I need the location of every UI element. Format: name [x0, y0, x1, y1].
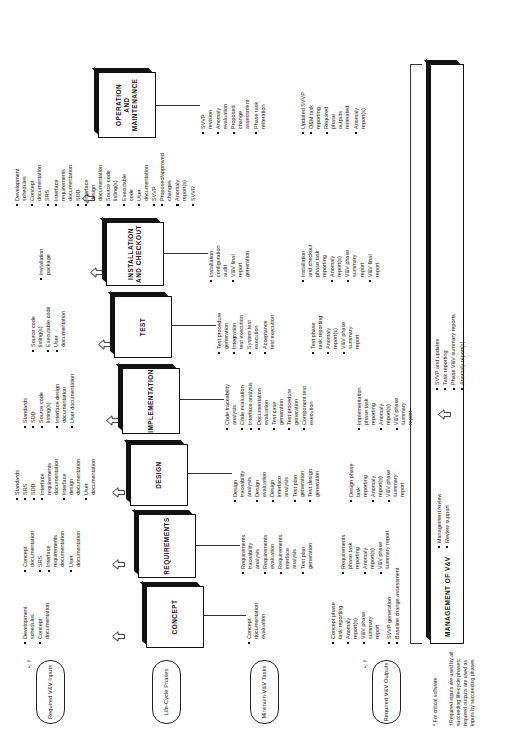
phase-box-requirements[interactable]: REQUIREMENTS — [138, 514, 196, 578]
phase-title: DESIGN — [155, 461, 163, 489]
outputs-list-management: SVVP and updates Task reporting Phase V&… — [434, 230, 467, 390]
list-item: Review support — [444, 428, 451, 548]
list-item: Source code listing(s) — [105, 136, 119, 206]
list-item: Design evaluation — [254, 442, 268, 502]
list-item: Executable code — [121, 136, 135, 206]
inputs-dagger-mark: •, † — [26, 659, 32, 668]
connector-test — [172, 325, 216, 326]
row-label-text: Life-Cycle Phases — [163, 669, 170, 716]
vv-lifecycle-diagram: Required V&V Inputs •, † Life-Cycle Phas… — [0, 0, 530, 734]
list-item: Test procedure generation — [216, 294, 230, 354]
list-item: Design phase task reporting — [348, 442, 369, 502]
list-item: Test procedure generation — [286, 368, 300, 430]
phase-box-implementation[interactable]: IMPLEMENTATION — [122, 368, 180, 434]
list-item: Anomaly report(s) — [329, 222, 343, 282]
phase-box-concept[interactable]: CONCEPT — [146, 586, 204, 648]
list-item: V&V phase summary report — [385, 442, 406, 502]
list-item: SDD — [30, 362, 37, 428]
list-item: Design interface analysis — [269, 442, 290, 502]
outputs-dagger-mark: •, † — [362, 659, 368, 668]
phase-title: CONCEPT — [171, 600, 179, 635]
list-item: Installation configuration audit — [208, 222, 229, 282]
row-label-required-vv-inputs: Required V&V Inputs — [36, 660, 65, 724]
list-item: Concept documentation — [37, 582, 51, 644]
flow-arrow-icon — [112, 487, 125, 498]
footnote-critical-software: * For critical software — [432, 646, 439, 726]
list-item: Acceptance test execution — [262, 294, 276, 354]
list-item: V&V phase summary report — [360, 584, 381, 644]
list-item: V&V phase summary report — [340, 294, 361, 354]
list-item: Test plan generation — [292, 442, 306, 502]
phase-box-operation-and-maintenance[interactable]: OPERATION AND MAINTENANCE — [98, 72, 156, 138]
tasks-list-concept: Concept documentation evaluation — [246, 584, 268, 644]
list-item: Proposed/approved changes — [159, 136, 173, 206]
list-item: SVVP generation — [386, 524, 393, 644]
row-label-minimum-vv-tasks: Minimum V&V Tasks — [250, 660, 279, 724]
list-item: SVVP revision — [200, 76, 214, 134]
list-item: Documentation evaluation — [256, 368, 270, 430]
outputs-list-operation-and-maintenance: Updated SVVP O&M task reporting Required… — [300, 76, 368, 134]
list-item: V&V final report — [367, 222, 381, 282]
list-item: Installation package — [38, 220, 52, 280]
phase-box-test[interactable]: TEST — [114, 296, 172, 358]
list-item: SRS — [44, 136, 51, 206]
list-item: Standards — [22, 362, 29, 428]
list-item: User documentation — [68, 510, 82, 572]
list-item: SRS — [37, 510, 44, 572]
list-item: Test design generation — [307, 442, 321, 502]
list-item: SRS — [22, 438, 29, 500]
outputs-list-test: Test phase task reporting Anomaly report… — [310, 294, 363, 354]
list-item: O&M task reporting — [308, 76, 322, 134]
connector-operation — [156, 105, 200, 106]
management-of-vv-title: MANAGEMENT OF V&V — [444, 556, 451, 637]
inputs-list-implementation: Standards SDD Source code listing(s) Int… — [22, 362, 77, 428]
list-item: Anomaly report(s) — [325, 294, 339, 354]
outputs-list-design: Design phase task reporting Anomaly repo… — [348, 442, 408, 502]
list-item: System test execution — [246, 294, 260, 354]
row-label-text: Required V&V Inputs — [47, 665, 54, 719]
list-item: Requirements phase task reporting — [340, 514, 361, 574]
list-item: Development schedules — [22, 582, 36, 644]
inputs-list-concept: Development schedules Concept documentat… — [22, 582, 52, 644]
phase-box-installation-and-checkout[interactable]: INSTALLATION AND CHECKOUT — [106, 222, 164, 286]
list-item: Anomaly report(s) — [345, 584, 359, 644]
connector-installation — [164, 253, 208, 254]
flow-arrow-icon — [112, 631, 125, 642]
phase-title: OPERATION AND MAINTENANCE — [115, 79, 139, 132]
connector-requirements — [196, 545, 240, 546]
list-item: User documentation — [69, 362, 76, 428]
phase-title: IMPLEMENTATION — [147, 369, 155, 433]
list-item: SVVP — [151, 136, 158, 206]
list-item: Integration test execution — [231, 294, 245, 354]
flow-arrow-icon — [82, 193, 95, 204]
list-item: User documentation — [53, 292, 67, 352]
list-item: Anomaly report(s) — [370, 442, 384, 502]
phase-title: INSTALLATION AND CHECKOUT — [127, 225, 143, 283]
inputs-list-requirements: Concept documentation SRS Interface requ… — [22, 510, 83, 572]
flow-arrow-icon — [438, 409, 451, 420]
list-item: Proposed change assessment — [230, 76, 251, 134]
list-item: Test phase task reporting — [310, 294, 324, 354]
list-item: Interface requirements documentation — [53, 136, 74, 206]
list-item: Required phase outputs reiterated — [323, 76, 351, 134]
list-item: SDD — [75, 136, 82, 206]
inputs-list-test: Source code listing(s) Executable code U… — [30, 292, 69, 352]
list-item: Interface design documentation — [61, 438, 82, 500]
list-item: V&V phase summary report — [344, 222, 365, 282]
list-item: Anomaly report(s) — [459, 230, 466, 390]
row-label-text: Minimum V&V Tasks — [261, 666, 268, 719]
inputs-list-installation-and-checkout: Installation package — [38, 220, 53, 280]
phase-box-design[interactable]: DESIGN — [130, 444, 188, 506]
connector-concept — [204, 615, 246, 616]
list-item: Requirements evaluation — [262, 514, 276, 574]
list-item: Code evaluation — [239, 368, 246, 430]
list-item: Anomaly report(s) — [362, 514, 376, 574]
list-item: Installation and checkout phase task rep… — [300, 222, 328, 282]
tasks-list-management: Management review Review support — [436, 428, 452, 548]
tasks-list-operation-and-maintenance: SVVP revision Anomaly evaluation Propose… — [200, 76, 268, 134]
row-label-life-cycle-phases: Life-Cycle Phases — [152, 660, 181, 724]
list-item: Interface analysis — [247, 368, 254, 430]
list-item: Standards — [14, 438, 21, 500]
list-item: Concept documentation evaluation — [246, 584, 267, 644]
list-item: Anomaly evaluation — [215, 76, 229, 134]
